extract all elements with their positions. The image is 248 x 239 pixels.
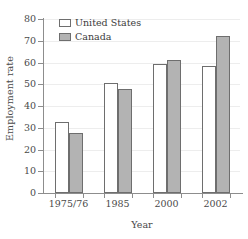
bar-united-states bbox=[153, 64, 167, 193]
x-axis-line bbox=[43, 193, 243, 194]
y-axis-tick bbox=[38, 19, 43, 20]
bar-united-states bbox=[55, 122, 69, 193]
y-axis-tick bbox=[38, 193, 43, 194]
bar-canada bbox=[69, 133, 83, 193]
legend-swatch-united-states bbox=[59, 19, 71, 27]
y-axis-tick-label: 30 bbox=[6, 123, 36, 133]
y-axis-tick-label: 20 bbox=[6, 145, 36, 155]
bar-canada bbox=[216, 36, 230, 193]
legend: United StatesCanada bbox=[59, 16, 159, 44]
x-axis-title: Year bbox=[44, 219, 240, 230]
y-axis-tick-label: 60 bbox=[6, 58, 36, 68]
y-axis-tick bbox=[38, 63, 43, 64]
y-axis-line bbox=[43, 18, 44, 194]
y-axis-tick bbox=[38, 171, 43, 172]
legend-swatch-canada bbox=[59, 33, 71, 41]
y-axis-tick-label: 40 bbox=[6, 101, 36, 111]
bar-canada bbox=[118, 89, 132, 193]
legend-item-label: United States bbox=[75, 18, 141, 28]
x-axis-tick-label: 2002 bbox=[186, 199, 246, 209]
x-axis-tick bbox=[181, 194, 182, 198]
y-axis-tick-label: 10 bbox=[6, 166, 36, 176]
legend-item-label: Canada bbox=[75, 32, 111, 42]
y-axis-tick bbox=[38, 106, 43, 107]
bar-canada bbox=[167, 60, 181, 193]
y-axis-tick-label: 70 bbox=[6, 36, 36, 46]
y-axis-tick bbox=[38, 84, 43, 85]
y-axis-tick-label: 80 bbox=[6, 14, 36, 24]
x-axis-tick bbox=[230, 194, 231, 198]
x-axis-title-label: Year bbox=[131, 219, 152, 230]
bar-united-states bbox=[104, 83, 118, 193]
y-axis-tick bbox=[38, 150, 43, 151]
legend-item: United States bbox=[59, 16, 159, 30]
bar-united-states bbox=[202, 66, 216, 193]
bar-chart: Employment rate 01020304050607080 1975/7… bbox=[0, 0, 248, 239]
y-axis-tick-label: 0 bbox=[6, 188, 36, 198]
y-axis-tick-label: 50 bbox=[6, 79, 36, 89]
x-axis-tick bbox=[132, 194, 133, 198]
plot-area bbox=[44, 19, 240, 193]
y-axis-tick bbox=[38, 128, 43, 129]
gridline bbox=[44, 63, 240, 64]
y-axis-tick bbox=[38, 41, 43, 42]
legend-item: Canada bbox=[59, 30, 159, 44]
